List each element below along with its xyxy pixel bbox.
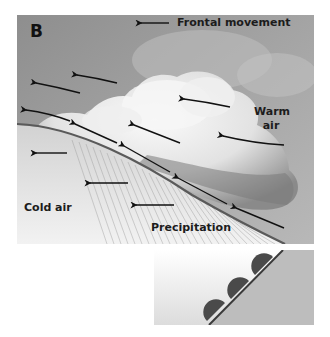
warm-front-symbol [154,250,314,325]
warm-front-diagram: B Frontal movement Warm air Cold air Pre… [0,0,330,337]
main-panel-cross-section: B Frontal movement Warm air Cold air Pre… [17,15,314,244]
warm-air-label-line1: Warm [254,105,288,119]
panel-letter: B [30,21,43,41]
cold-air-label: Cold air [24,202,72,214]
warm-air-label-line2: air [254,119,288,133]
warm-air-label: Warm air [254,105,288,133]
frontal-movement-label: Frontal movement [177,17,291,29]
precipitation-label: Precipitation [151,222,231,234]
warm-front-symbol-inset [154,250,314,325]
